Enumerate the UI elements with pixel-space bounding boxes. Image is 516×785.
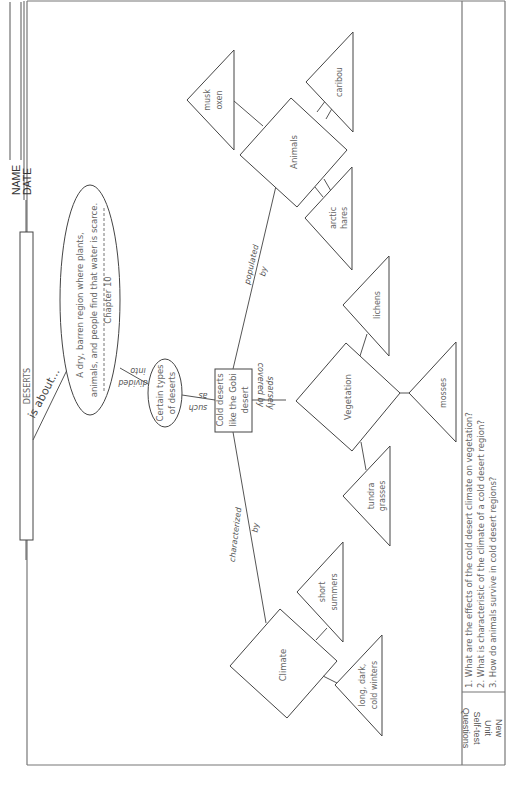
link-characterized-by: characterized by	[228, 432, 266, 623]
section-label-self-test: Self-test	[472, 711, 482, 745]
link-characterized-by-label: by	[250, 522, 260, 533]
link-divided-label: divided	[117, 378, 147, 387]
animal-arctic-hares-line2: hares	[340, 207, 349, 229]
animals-label: Animals	[289, 135, 299, 169]
vegetation-label: Vegetation	[343, 374, 353, 420]
question-2: 2. What is characteristic of the climate…	[476, 420, 486, 688]
link-sparsely-covered-by: covered by sparsely	[252, 363, 286, 410]
question-3: 3. How do animals survive in cold desert…	[488, 477, 498, 688]
animal-musk-oxen-line1: musk	[203, 89, 212, 111]
date-label: DATE	[21, 168, 33, 195]
types-line2: of deserts	[167, 371, 177, 414]
climate-winters-line1: long, dark,	[358, 664, 367, 707]
self-test-questions: 1. What are the effects of the cold dese…	[464, 412, 498, 688]
types-line1: Certain types	[155, 364, 165, 422]
link-into-label: into	[130, 366, 145, 375]
node-cold-deserts: Cold deserts like the Gobi desert	[215, 369, 252, 432]
link-characterized-label: characterized	[228, 506, 244, 562]
climate-label: Climate	[278, 649, 288, 682]
name-date-area[interactable]: NAME DATE	[10, 2, 33, 195]
definition-line1: A dry, barren region where plants,	[75, 232, 85, 378]
link-as-label: as	[198, 391, 207, 400]
link-populated-by-label: by	[258, 265, 269, 277]
node-climate: Climate short summers long, dark, cold w…	[230, 542, 382, 736]
animal-musk-oxen-line2: oxen	[215, 90, 224, 109]
questions-section-label: New Unit Self-test Questions	[461, 708, 504, 749]
node-desert-types: Certain types of deserts	[148, 359, 182, 427]
vegetation-lichens: lichens	[373, 291, 382, 319]
link-sparsely-label: sparsely	[266, 376, 275, 410]
topic-title: DESERTS	[23, 368, 32, 404]
animal-arctic-hares-line1: arctic	[329, 207, 338, 229]
section-label-questions: Questions	[461, 708, 471, 749]
definition-ellipse: A dry, barren region where plants, anima…	[60, 185, 120, 415]
node-animals: Animals musk oxen caribou arctic hares	[187, 32, 353, 270]
question-1: 1. What are the effects of the cold dese…	[464, 412, 474, 688]
section-label-new: New	[494, 719, 504, 738]
link-covered-by-label: covered by	[256, 363, 265, 408]
topic-bar: DESERTS	[20, 200, 33, 560]
definition-line2: animals, and people find that water is s…	[89, 203, 99, 397]
link-such-label: such	[189, 403, 208, 412]
vegetation-tundra-grasses-line1: tundra	[367, 483, 376, 510]
cold-line1: Cold deserts	[215, 373, 225, 427]
vegetation-mosses: mosses	[439, 378, 448, 408]
section-label-unit: Unit	[483, 720, 493, 737]
cold-line2: like the Gobi	[228, 373, 238, 426]
node-vegetation: Vegetation lichens mosses tundra grasses	[296, 256, 456, 546]
link-such-as: such as	[182, 391, 215, 412]
link-populated-by: populated by	[233, 186, 276, 369]
climate-short-summers-line1: short	[318, 582, 327, 603]
link-divided-into: divided into	[117, 366, 148, 387]
concept-map-worksheet: NAME DATE DESERTS is about... A dry, bar…	[0, 0, 516, 785]
climate-short-summers-line2: summers	[330, 573, 339, 610]
cold-line3: desert	[240, 386, 250, 414]
climate-winters-line2: cold winters	[370, 661, 379, 710]
vegetation-tundra-grasses-line2: grasses	[378, 481, 387, 512]
definition-chapter: Chapter 10	[103, 276, 113, 324]
animal-caribou: caribou	[335, 67, 344, 97]
